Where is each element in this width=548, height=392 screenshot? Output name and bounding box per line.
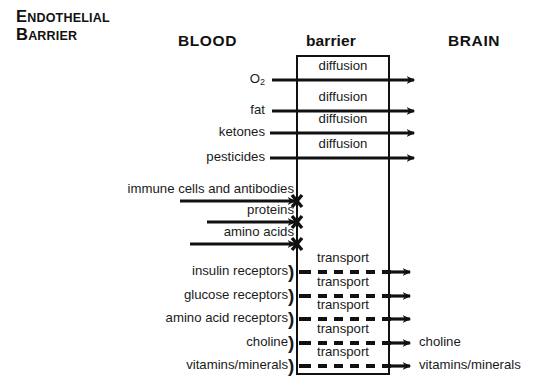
title-line-1: ENDOTHELIAL (16, 8, 110, 25)
receptor-icon-10: ) (288, 332, 294, 354)
title-line-2-rest: ARRIER (28, 29, 77, 43)
title-line-1-rest: NDOTHELIAL (27, 11, 110, 25)
row-label-0: O2 (0, 72, 265, 87)
receptor-icon-7: ) (288, 261, 294, 283)
row-label-5: proteins (0, 203, 294, 216)
title-line-2: BARRIER (16, 26, 77, 43)
row-label-2: ketones (0, 125, 265, 138)
row-label-text: O2 (250, 71, 265, 86)
row-label-10: choline (0, 335, 288, 348)
row-label-4: immune cells and antibodies (0, 182, 294, 195)
mechanism-label-2: diffusion (297, 112, 389, 125)
receptor-icon-11: ) (288, 355, 294, 377)
subscript: 2 (260, 77, 265, 87)
column-heading-brain: BRAIN (448, 33, 500, 49)
row-label-11: vitamins/minerals (0, 358, 288, 371)
output-label-11: vitamins/minerals (419, 358, 521, 371)
mechanism-label-3: diffusion (297, 137, 389, 150)
mechanism-label-8: transport (297, 275, 389, 288)
output-label-10: choline (419, 335, 461, 348)
row-label-7: insulin receptors (0, 264, 288, 277)
mechanism-label-1: diffusion (297, 90, 389, 103)
mechanism-label-7: transport (297, 251, 389, 264)
row-label-3: pesticides (0, 150, 265, 163)
mechanism-label-11: transport (297, 345, 389, 358)
row-label-1: fat (0, 103, 265, 116)
mechanism-label-0: diffusion (297, 59, 389, 72)
mechanism-label-9: transport (297, 298, 389, 311)
row-label-9: amino acid receptors (0, 311, 288, 324)
title-line-1-cap: E (16, 7, 27, 25)
title-line-2-cap: B (16, 25, 28, 43)
receptor-icon-8: ) (288, 285, 294, 307)
mechanism-label-10: transport (297, 322, 389, 335)
receptor-icon-9: ) (288, 308, 294, 330)
column-heading-barrier: barrier (306, 33, 356, 49)
column-heading-blood: BLOOD (178, 33, 237, 49)
diagram-canvas: ENDOTHELIAL BARRIER BLOOD barrier BRAIN … (0, 0, 548, 392)
row-label-8: glucose receptors (0, 288, 288, 301)
row-label-6: amino acids (0, 225, 294, 238)
